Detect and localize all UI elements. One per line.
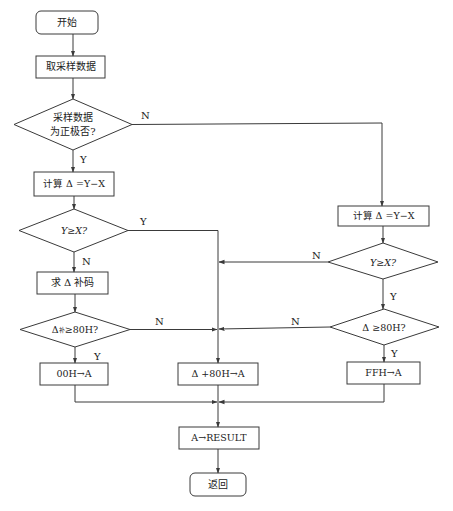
right-compute-label: 计算 Δ =Y−X xyxy=(338,206,429,226)
edge-label-left-threshold-no: N xyxy=(155,316,164,328)
edge-label-right-compare-yes: Y xyxy=(390,291,397,303)
edge-label-right-compare-no: N xyxy=(312,250,321,262)
return-label: 返回 xyxy=(190,473,246,496)
add-80h-label: Δ +80H→A xyxy=(178,363,258,385)
edge-label-sign-yes: Y xyxy=(80,154,87,166)
start-label: 开始 xyxy=(36,11,98,34)
left-compute-label: 计算 Δ =Y−X xyxy=(34,172,114,196)
edge-label-right-threshold-no: N xyxy=(291,316,300,328)
edge-label-right-threshold-yes: Y xyxy=(391,348,398,360)
set-00h-label: 00H→A xyxy=(40,363,108,385)
edge-right-threshold-no xyxy=(219,327,330,329)
edge-sign-no xyxy=(132,123,382,206)
get-data-label: 取采样数据 xyxy=(36,56,105,78)
edge-ffh-to-merge xyxy=(219,384,384,402)
left-compare-label: Y≥X? xyxy=(40,222,108,239)
edge-label-sign-no: N xyxy=(141,110,150,122)
complement-label: 求 Δ 补码 xyxy=(37,272,108,294)
left-threshold-label: Δ补≥80H? xyxy=(36,321,114,338)
edge-label-left-compare-no: N xyxy=(82,256,91,268)
right-compare-label: Y≥X? xyxy=(350,254,416,271)
sign-check-label: 采样数据 为正极否? xyxy=(30,105,116,145)
right-threshold-label: Δ ≥80H? xyxy=(346,319,422,336)
set-ffh-label: FFH→A xyxy=(347,362,420,384)
edge-00h-to-merge xyxy=(75,385,217,402)
store-result-label: A→RESULT xyxy=(179,427,259,449)
sign-check-line1: 采样数据 xyxy=(53,111,93,125)
edge-label-left-compare-yes: Y xyxy=(140,216,147,228)
edge-left-compare-yes xyxy=(128,231,218,364)
sign-check-line2: 为正极否? xyxy=(50,125,95,139)
left-threshold-suffix: ≥80H? xyxy=(65,323,98,337)
left-threshold-prefix: Δ xyxy=(52,323,59,337)
edge-label-left-threshold-yes: Y xyxy=(94,351,101,363)
